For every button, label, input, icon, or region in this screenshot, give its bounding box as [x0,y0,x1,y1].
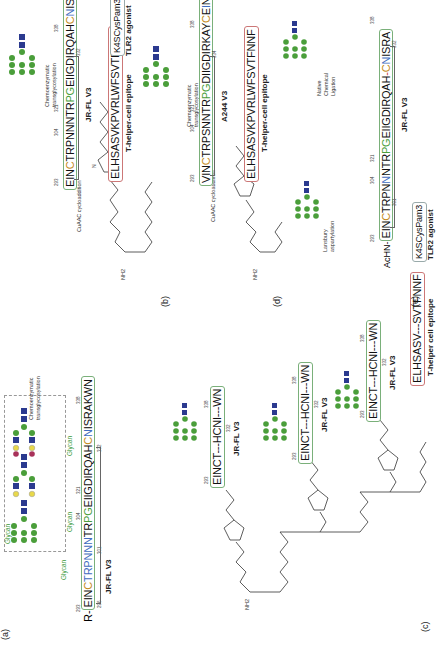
glycan-e2 [280,12,320,62]
achn-prefix: AcHN- [382,242,392,269]
sequence-c2: EINCT---HCNI---WN [298,362,313,464]
construct-label-c1: JR-FL V3 [232,421,241,456]
figure-rotated: (a) Glycan [0,0,438,652]
tlr2-agonist-c: K4SCysPam3 [412,202,427,262]
construct-label-e: JR-FL V3 [400,97,409,132]
ncl-label: Native Chemical Ligation [316,56,337,96]
construct-label-c3: JR-FL V3 [388,355,397,390]
disulfide-bracket-e [390,46,395,228]
panel-e-label: (e) [410,296,420,307]
construct-label-c2: JR-FL V3 [320,397,329,432]
tlr2-label-c: TLR2 agonist [426,209,435,260]
sequence-c1: EINCT---HCNI---WN [210,386,225,488]
sequence-c3: EINCT---HCNI---WN [366,320,381,422]
glycan-c2 [260,394,300,444]
lansbury-label: Lansbury aspartylation [322,202,336,252]
t-helper-label-c: T-helper cell epitope [426,299,435,376]
t-helper-epitope-c: ELHSASV---SVTFNNF [410,272,425,386]
nh2-label-c: NH2 [244,599,250,610]
